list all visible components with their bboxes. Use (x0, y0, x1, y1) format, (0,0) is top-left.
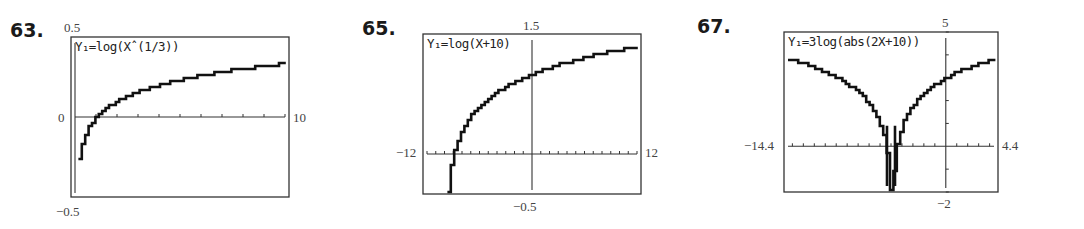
equation-label: Y₁=log(Xˆ(1/3)) (75, 39, 179, 54)
chart-67: Y₁=3log(abs(2X+10)) (784, 32, 998, 192)
chart-65: Y₁=log(X+10) (423, 34, 641, 194)
equation-label: Y₁=log(X+10) (427, 36, 510, 51)
chart-63: Y₁=log(Xˆ(1/3)) (71, 37, 289, 197)
calculator-graphs: Y₁=log(Xˆ(1/3)) Y₁=log(X+10) Y₁=3log(abs… (0, 0, 1084, 229)
equation-label: Y₁=3log(abs(2X+10)) (788, 34, 920, 49)
